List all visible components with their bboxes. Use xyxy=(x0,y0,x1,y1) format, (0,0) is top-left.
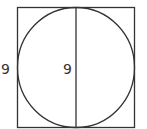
square-side-label: 9 xyxy=(1,61,10,77)
diameter-label: 9 xyxy=(63,61,72,77)
diagram-canvas: 9 9 xyxy=(0,0,147,129)
